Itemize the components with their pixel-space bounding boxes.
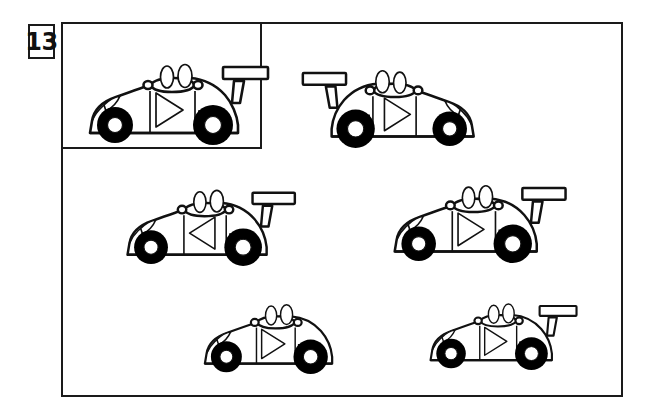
puzzle-number-badge: 13 xyxy=(28,24,55,59)
race-car-icon xyxy=(387,167,569,263)
rear-wheel xyxy=(193,105,233,145)
headrest-fin-right xyxy=(281,305,293,325)
mirror-rear xyxy=(225,206,233,214)
mirror-front xyxy=(178,206,186,214)
headrest-fin-right xyxy=(376,71,389,93)
race-car-icon xyxy=(82,45,272,145)
car-4[interactable] xyxy=(198,288,361,374)
rear-wheel xyxy=(336,110,374,148)
mirror-front xyxy=(251,319,259,326)
mirror-front xyxy=(446,202,455,210)
headrest-fin-right xyxy=(178,65,192,88)
race-car-icon xyxy=(299,52,481,148)
car-2[interactable] xyxy=(120,172,299,266)
front-wheel xyxy=(97,107,133,143)
rear-spoiler xyxy=(303,73,346,108)
mirror-rear xyxy=(494,202,503,210)
mirror-rear xyxy=(294,319,302,326)
mirror-front xyxy=(144,81,153,89)
rear-wheel xyxy=(224,228,262,266)
front-wheel xyxy=(401,227,436,262)
car-5[interactable] xyxy=(424,288,580,370)
race-car-icon xyxy=(120,172,299,266)
headrest-fin-left xyxy=(161,66,174,88)
front-wheel xyxy=(134,230,168,264)
rear-spoiler xyxy=(223,67,268,103)
headrest-fin-left xyxy=(488,305,499,323)
headrest-fin-left xyxy=(462,187,474,208)
mirror-rear xyxy=(366,87,375,95)
rear-spoiler xyxy=(540,306,577,336)
race-car-icon xyxy=(198,288,361,374)
headrest-fin-left xyxy=(266,306,277,325)
car-1[interactable] xyxy=(299,52,481,148)
mirror-rear xyxy=(515,318,522,325)
headrest-fin-left xyxy=(194,192,206,213)
rear-wheel xyxy=(293,340,327,374)
puzzle-canvas: 13 xyxy=(0,0,653,413)
car-3[interactable] xyxy=(387,167,569,263)
rear-spoiler xyxy=(522,188,565,223)
headrest-fin-right xyxy=(503,304,514,323)
rear-spoiler xyxy=(253,193,295,227)
rear-wheel xyxy=(494,225,532,263)
mirror-front xyxy=(474,318,481,325)
mirror-rear xyxy=(194,81,203,89)
headrest-fin-right xyxy=(210,190,223,212)
rear-wheel xyxy=(515,337,548,370)
puzzle-number-label: 13 xyxy=(25,30,57,54)
mirror-front xyxy=(414,87,423,95)
front-wheel xyxy=(436,339,466,369)
front-wheel xyxy=(432,112,467,147)
front-wheel xyxy=(211,341,242,372)
headrest-fin-right xyxy=(479,186,492,208)
headrest-fin-left xyxy=(394,72,406,93)
race-car-icon xyxy=(424,288,580,370)
car-reference[interactable] xyxy=(82,45,272,145)
